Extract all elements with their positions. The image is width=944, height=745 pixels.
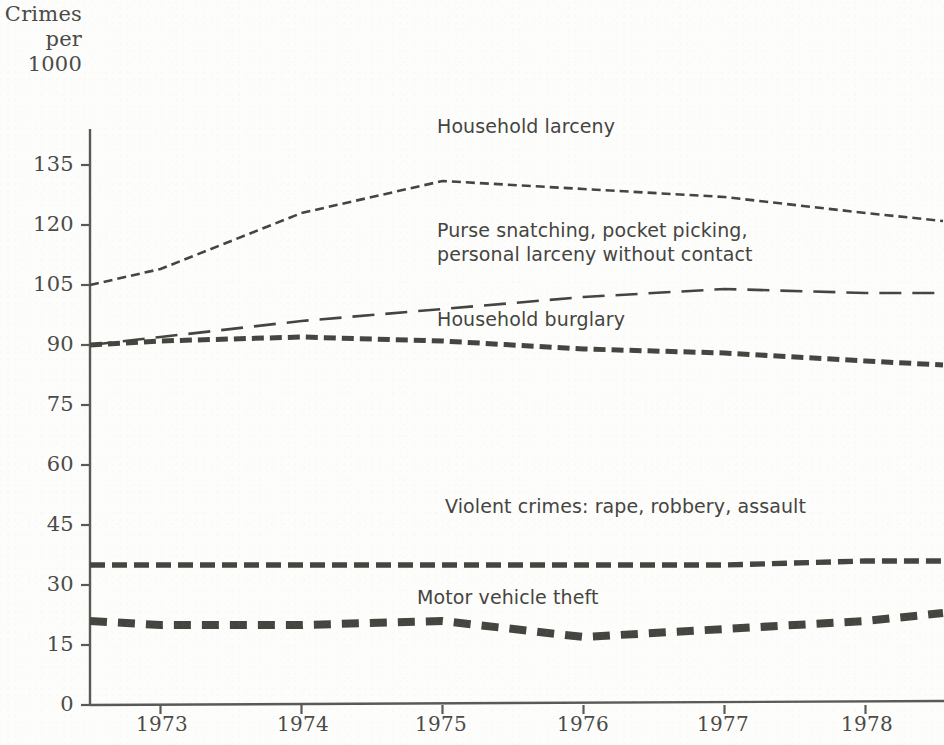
series-line-violent-crimes-rape	[90, 561, 943, 565]
series-line-household-larceny	[90, 181, 943, 285]
chart-page: Crimes per 1000 135 120 105 90 75 60 45 …	[0, 0, 944, 745]
series-line-motor-vehicle-theft	[90, 613, 943, 637]
series-line-household-burglary	[90, 337, 943, 365]
series-line-purse-snatching-pocket	[90, 289, 943, 345]
chart-plot-area	[0, 0, 944, 745]
